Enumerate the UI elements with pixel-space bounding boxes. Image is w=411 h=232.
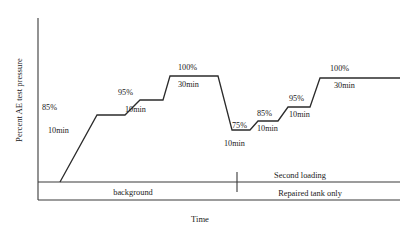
annotation-95-percent-second: 95% xyxy=(289,94,304,103)
annotation-10min-third: 10min xyxy=(224,139,245,148)
annotation-85-percent-first: 85% xyxy=(42,103,57,112)
annotation-10min-first: 10min xyxy=(48,126,69,135)
annotation-10min-second: 10min xyxy=(125,105,146,114)
annotation-30min-first: 30min xyxy=(178,80,199,89)
annotation-95-percent-first: 95% xyxy=(118,88,133,97)
ae-pressure-loading-chart: Percent AE test pressure Time background… xyxy=(0,0,411,232)
region-label-repaired-tank-only: Repaired tank only xyxy=(278,189,343,198)
region-label-background: background xyxy=(113,188,153,197)
pressure-profile-curve xyxy=(60,76,400,182)
annotation-100-percent-second: 100% xyxy=(330,64,349,73)
annotation-75-percent: 75% xyxy=(232,121,247,130)
y-axis-label: Percent AE test pressure xyxy=(14,58,24,142)
region-label-second-loading: Second loading xyxy=(274,171,327,180)
annotation-10min-fourth: 10min xyxy=(257,124,278,133)
x-axis-label: Time xyxy=(191,214,209,224)
annotation-30min-second: 30min xyxy=(334,81,355,90)
annotation-85-percent-second: 85% xyxy=(257,109,272,118)
annotation-100-percent-first: 100% xyxy=(178,63,197,72)
annotation-10min-fifth: 10min xyxy=(289,110,310,119)
